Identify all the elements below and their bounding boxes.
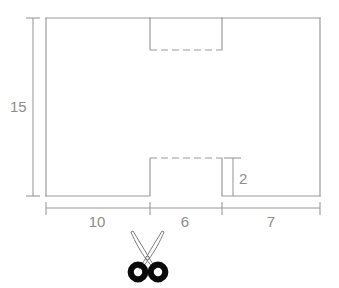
- notch-depth-label: 2: [239, 170, 247, 187]
- bottom-notch: [150, 158, 222, 196]
- width-segment-label-0: 10: [89, 213, 106, 230]
- geometry-figure-canvas: 15 2 10 6 7: [0, 0, 339, 288]
- scissors-handle-right: [151, 265, 166, 280]
- rectangle-outline: [46, 18, 320, 196]
- geometry-diagram-svg: 15 2 10 6 7: [0, 0, 339, 288]
- width-segment-label-1: 6: [181, 213, 189, 230]
- scissors-icon: [131, 231, 166, 279]
- height-dimension-label: 15: [10, 98, 27, 115]
- scissors-pivot: [146, 256, 150, 260]
- scissors-handle-left: [131, 265, 146, 280]
- width-segment-label-2: 7: [267, 213, 275, 230]
- height-dimension: [26, 18, 40, 196]
- top-notch: [150, 18, 222, 50]
